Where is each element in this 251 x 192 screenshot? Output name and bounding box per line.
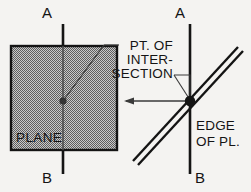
edge-label-line-1: EDGE: [196, 118, 235, 133]
axis-label-bottom-right: B: [195, 169, 205, 186]
plane-label: PLANE: [16, 130, 62, 145]
axis-label-bottom-left: B: [42, 169, 52, 186]
note-label-line-2: INTER-: [127, 52, 173, 67]
note-label-line-3: SECTION: [112, 66, 173, 81]
note-label-line-1: PT. OF: [130, 38, 173, 53]
edge-label-line-2: OF PL.: [196, 134, 240, 149]
intersection-node-icon: [185, 96, 195, 106]
intersection-dot-icon: [59, 97, 66, 104]
axis-label-top-left: A: [42, 4, 52, 21]
diagram-canvas: PLANE A B A B PT. OF INTER- SE: [0, 0, 251, 192]
axis-label-top-right: A: [175, 4, 185, 21]
technical-diagram: PLANE A B A B PT. OF INTER- SE: [0, 0, 251, 192]
